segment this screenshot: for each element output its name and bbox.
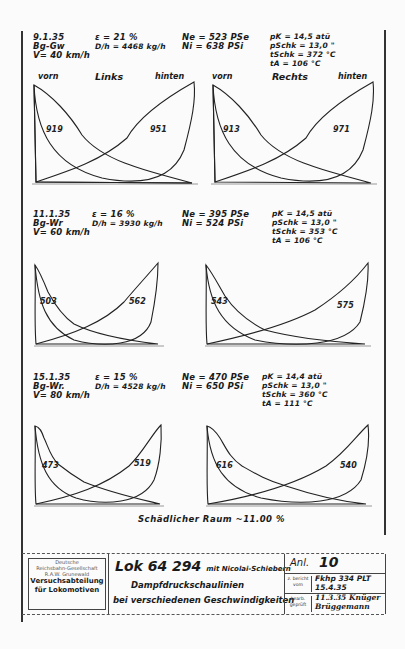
- test-3-left-indicator-diagram: 473 519: [34, 424, 164, 508]
- test-2-speed: V= 60 km/h: [33, 228, 90, 237]
- area-2-left-front: 503: [40, 297, 57, 306]
- dead-space-note: Schädlicher Raum ~11.00 %: [138, 514, 285, 524]
- dept-line-1: Versuchsabteilung: [29, 577, 105, 586]
- report-label: z. bericht vom: [285, 576, 312, 592]
- signature-1: 11.3.35 Knüger: [315, 594, 380, 602]
- report-date: 15.4.35: [315, 584, 347, 592]
- drawing-title: Lok 64 294 mit Nicolai-Schiebern Dampfdr…: [108, 554, 285, 614]
- test-1-left-indicator-diagram: 919 951: [32, 80, 198, 186]
- test-3-cutoff: ε = 15 %: [95, 373, 138, 382]
- test-3-speed: V= 80 km/h: [33, 391, 90, 400]
- area-2-right-front: 543: [211, 297, 228, 306]
- title-block: Deutsche Reichsbahn-Gesellschaft R.A.W. …: [22, 553, 384, 615]
- anl-label: Anl.: [290, 557, 309, 568]
- report-ref: Fkhp 334 PLT: [315, 575, 371, 583]
- test-1-t-abdampf: tA = 106 °C: [270, 60, 321, 69]
- test-2-left-indicator-diagram: 503 562: [34, 262, 160, 348]
- test-3-ni: Ni = 650 PSi: [182, 382, 243, 391]
- indicator-diagram-sheet: 9.1.35 Bg-Gw V= 40 km/h ε = 21 % D/h = 4…: [0, 0, 405, 649]
- anl-value: 10: [319, 554, 338, 570]
- sheet-border-left: [21, 31, 23, 622]
- subject-line-2: bei verschiedenen Geschwindigkeiten: [113, 595, 294, 605]
- locomotive-id: Lok 64 294 mit Nicolai-Schiebern: [115, 558, 291, 574]
- signature-row: bearb. geprüft 11.3.35 Knüger Brüggemann: [285, 594, 385, 613]
- area-left-rear: 951: [150, 125, 167, 134]
- reference-box: Anl. 10 z. bericht vom Fkhp 334 PLT 15.4…: [284, 554, 386, 614]
- test-2-steam: D/h = 3930 kg/h: [92, 220, 163, 229]
- test-1-steam: D/h = 4468 kg/h: [95, 43, 166, 52]
- sheet-border-right: [384, 30, 386, 535]
- area-right-front: 913: [223, 125, 240, 134]
- loco-number: Lok 64 294: [115, 558, 201, 574]
- signature-2: Brüggemann: [315, 603, 370, 611]
- area-left-front: 919: [46, 125, 63, 134]
- area-2-right-rear: 575: [337, 301, 354, 310]
- organization-stamp: Deutsche Reichsbahn-Gesellschaft R.A.W. …: [28, 558, 106, 610]
- test-3-t-abdampf: tA = 111 °C: [262, 400, 313, 409]
- loco-suffix: mit Nicolai-Schiebern: [206, 565, 291, 573]
- test-2-right-indicator-diagram: 543 575: [205, 262, 371, 348]
- area-3-right-front: 616: [216, 461, 233, 470]
- test-2-cutoff: ε = 16 %: [92, 210, 135, 219]
- test-3-right-indicator-diagram: 616 540: [206, 424, 372, 508]
- subject-line-1: Dampfdruckschaulinien: [131, 580, 244, 590]
- area-right-rear: 971: [333, 125, 350, 134]
- report-reference-row: z. bericht vom Fkhp 334 PLT 15.4.35: [285, 574, 385, 594]
- test-1-ni: Ni = 638 PSi: [182, 42, 243, 51]
- area-3-right-rear: 540: [340, 461, 357, 470]
- test-1-speed: V= 40 km/h: [33, 51, 90, 60]
- dept-line-2: für Lokomotiven: [29, 586, 105, 595]
- test-1-cutoff: ε = 21 %: [95, 33, 138, 42]
- checked-label: bearb. geprüft: [285, 596, 312, 612]
- attachment-number: Anl. 10: [285, 554, 385, 574]
- test-3-steam: D/h = 4528 kg/h: [95, 383, 166, 392]
- area-3-left-front: 473: [41, 461, 59, 470]
- test-2-ni: Ni = 524 PSi: [182, 219, 243, 228]
- test-1-right-indicator-diagram: 913 971: [211, 80, 377, 186]
- area-3-left-rear: 519: [134, 459, 151, 468]
- area-2-left-rear: 562: [129, 297, 146, 306]
- test-2-t-abdampf: tA = 106 °C: [272, 237, 323, 246]
